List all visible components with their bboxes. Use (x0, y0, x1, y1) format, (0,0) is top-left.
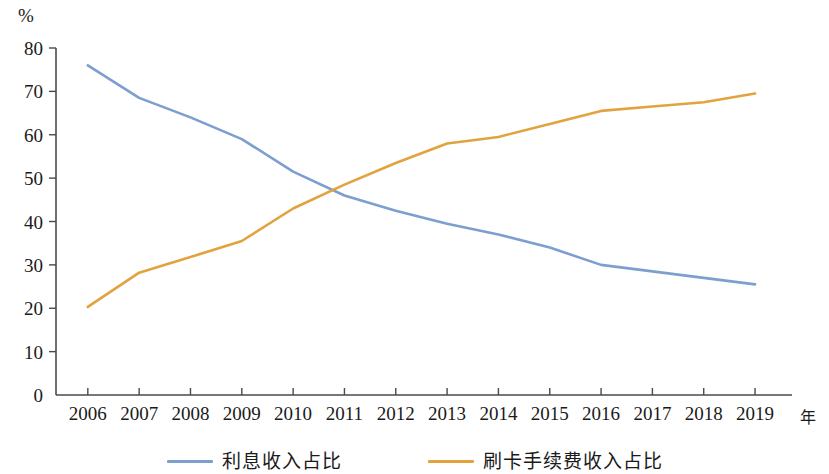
y-axis-tick-label: 70 (7, 82, 43, 101)
data-series-group (88, 65, 755, 307)
y-axis-tick-label: 40 (7, 213, 43, 232)
x-axis-ticks (88, 388, 755, 395)
y-axis-tick-label: 10 (7, 343, 43, 362)
y-axis-tick-label: 20 (7, 299, 43, 318)
data-series-line-interest-income (88, 65, 755, 284)
y-axis-tick-label: 30 (7, 256, 43, 275)
y-axis-tick-label: 80 (7, 39, 43, 58)
x-axis-title: 年 (800, 404, 816, 428)
legend-swatch-card-fee-income (428, 460, 474, 463)
y-axis-ticks (49, 48, 56, 352)
legend-label-interest-income: 利息收入占比 (222, 452, 342, 471)
axis-lines (56, 48, 792, 395)
y-axis-tick-label: 60 (7, 126, 43, 145)
line-chart: % 01020304050607080 20062007200820092010… (0, 0, 829, 474)
y-axis-tick-label: 50 (7, 169, 43, 188)
y-axis-tick-label: 0 (7, 386, 43, 405)
legend-swatch-interest-income (167, 460, 213, 463)
data-series-line-card-fee-income (88, 94, 755, 307)
legend-item-interest-income[interactable]: 利息收入占比 (167, 452, 342, 471)
legend-label-card-fee-income: 刷卡手续费收入占比 (483, 452, 663, 471)
legend-item-card-fee-income[interactable]: 刷卡手续费收入占比 (428, 452, 663, 471)
chart-legend: 利息收入占比 刷卡手续费收入占比 (0, 448, 829, 474)
x-axis-tick-label: 2019 (725, 404, 785, 423)
